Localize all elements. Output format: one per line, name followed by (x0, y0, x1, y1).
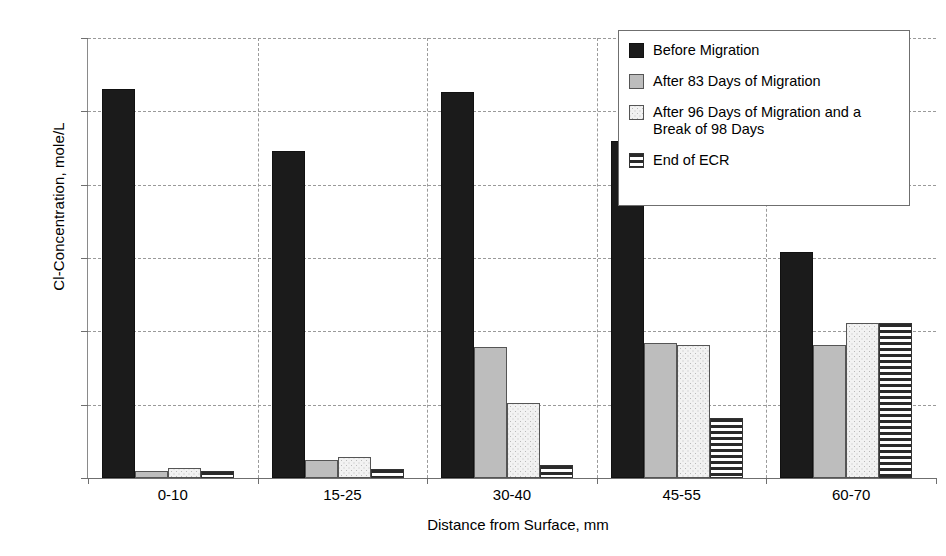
x-category-label: 15-25 (258, 486, 428, 503)
y-axis-title: Cl-Concentration, mole/L (50, 57, 67, 357)
legend-swatch-icon (629, 105, 644, 120)
bar (441, 92, 474, 478)
x-category-label: 30-40 (427, 486, 597, 503)
x-tick-mark (936, 478, 937, 484)
bar (507, 403, 540, 478)
bar (168, 468, 201, 478)
legend-item[interactable]: After 83 Days of Migration (629, 73, 899, 90)
bar (305, 460, 338, 478)
bar-chart: Cl-Concentration, mole/L Distance from S… (0, 0, 946, 556)
legend-item[interactable]: After 96 Days of Migration and a Break o… (629, 104, 899, 138)
x-category-label: 45-55 (597, 486, 767, 503)
category-separator (258, 38, 259, 478)
bar (338, 457, 371, 478)
category-separator (597, 38, 598, 478)
bar (677, 345, 710, 478)
x-axis-title: Distance from Surface, mm (88, 516, 946, 533)
x-tick-mark (766, 478, 767, 484)
bar (540, 465, 573, 478)
y-tick-mark (81, 111, 88, 112)
bar (474, 347, 507, 478)
legend-label: Before Migration (653, 42, 759, 59)
x-axis-line (87, 478, 936, 479)
bar (371, 469, 404, 478)
x-tick-mark (597, 478, 598, 484)
y-tick-mark (81, 38, 88, 39)
bar (102, 89, 135, 478)
legend-label: After 96 Days of Migration and a Break o… (653, 104, 899, 138)
bar (780, 252, 813, 478)
legend-swatch-icon (629, 74, 644, 89)
bar (644, 343, 677, 478)
legend-item[interactable]: Before Migration (629, 42, 899, 59)
y-tick-mark (81, 331, 88, 332)
bar (272, 151, 305, 478)
legend-swatch-icon (629, 43, 644, 58)
x-category-label: 0-10 (88, 486, 258, 503)
legend-label: After 83 Days of Migration (653, 73, 821, 90)
bar (879, 323, 912, 478)
bar (201, 471, 234, 478)
legend-item[interactable]: End of ECR (629, 152, 899, 169)
bar (846, 323, 879, 478)
category-separator (427, 38, 428, 478)
y-tick-mark (81, 185, 88, 186)
y-tick-mark (81, 478, 88, 479)
y-tick-mark (81, 405, 88, 406)
legend-label: End of ECR (653, 152, 730, 169)
x-tick-mark (427, 478, 428, 484)
x-category-label: 60-70 (766, 486, 936, 503)
bar (135, 471, 168, 478)
bar (710, 418, 743, 478)
bar (813, 345, 846, 478)
legend-swatch-icon (629, 153, 644, 168)
legend: Before MigrationAfter 83 Days of Migrati… (618, 30, 910, 206)
x-tick-mark (258, 478, 259, 484)
y-tick-mark (81, 258, 88, 259)
x-tick-mark (88, 478, 89, 484)
